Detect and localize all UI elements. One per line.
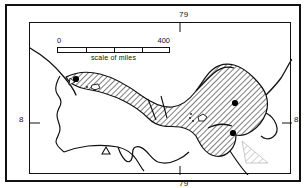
locality-dot-northeast	[232, 100, 238, 106]
coastline-west-pacific	[56, 76, 64, 152]
latitude-label-right: 8	[294, 116, 299, 124]
triangle-locality-symbol	[102, 147, 110, 154]
range-hatched-main	[66, 64, 268, 156]
longitude-label-bottom: 79	[179, 180, 189, 188]
scale-bar-endlabels: 0 400	[57, 37, 170, 46]
locality-dot-west	[73, 76, 79, 82]
longitude-label-top: 79	[179, 11, 189, 19]
map-neatline: 0 400 scale of miles	[29, 22, 291, 174]
figure-outer-frame: 79 79 8 8 8 8	[5, 4, 301, 182]
scale-bar-caption: scale of miles	[57, 54, 170, 61]
scale-bar: 0 400 scale of miles	[57, 37, 170, 61]
range-light-hatch-wedge	[242, 141, 268, 163]
locality-dot-southeast	[230, 130, 236, 136]
latitude-label-left: 8	[19, 116, 24, 124]
coastline-azuero-peninsula	[118, 147, 189, 163]
map-figure: 79 79 8 8 8 8	[0, 0, 307, 188]
coastline-northeast-colombia	[266, 59, 292, 95]
scale-tick-3	[142, 48, 143, 52]
scale-bar-box	[57, 47, 170, 53]
scale-max-label: 400	[157, 37, 170, 45]
scale-min-label: 0	[57, 37, 61, 45]
scale-tick-1	[86, 48, 87, 52]
scale-tick-2	[114, 48, 115, 52]
